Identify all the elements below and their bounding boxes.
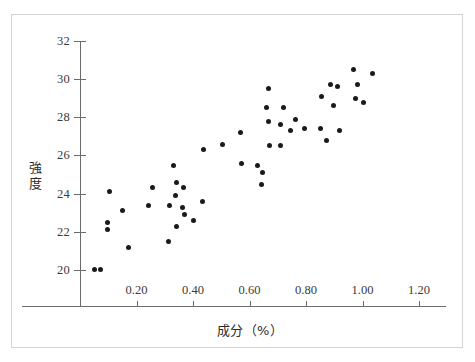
x-axis-tick-label: 1.00 [340,283,386,298]
data-point [331,103,336,108]
y-axis-tick [74,155,86,156]
data-point [255,163,260,168]
data-point [171,163,176,168]
data-point [266,119,271,124]
data-point [105,227,110,232]
data-point [191,218,196,223]
x-axis-tick [137,301,138,307]
data-point [239,161,244,166]
data-point [92,267,97,272]
y-axis-tick-label: 22 [40,225,70,239]
data-point [181,185,186,190]
data-point [281,105,286,110]
y-axis-tick [74,117,86,118]
y-axis-tick-label-text: 32 [44,34,70,49]
y-axis-tick-label-text: 20 [44,263,70,278]
y-axis-tick-label: 28 [40,110,70,124]
y-axis-tick-label-text: 30 [44,72,70,87]
x-axis-line [22,306,446,307]
data-point [351,67,356,72]
y-axis-tick-label: 26 [40,148,70,162]
y-axis-tick [74,79,86,80]
x-axis-tick-label: 0.80 [283,283,329,298]
data-point [150,185,155,190]
data-point [174,180,179,185]
x-axis-tick [306,301,307,307]
data-point [120,208,125,213]
data-point [107,189,112,194]
data-point [353,96,358,101]
data-point [324,138,329,143]
y-axis-tick-label-text: 24 [44,187,70,202]
y-axis-tick [74,270,86,271]
data-point [200,199,205,204]
y-axis-tick-label-text: 26 [44,148,70,163]
data-point [174,224,179,229]
data-point [267,143,272,148]
y-axis-tick [74,232,86,233]
scatter-plot: 強度 成分（%） 20222426283032 0.200.400.600.80… [0,0,475,362]
data-point [318,126,323,131]
data-point [201,147,206,152]
data-point [126,245,131,250]
x-axis-tick-label: 0.60 [227,283,273,298]
data-point [146,203,151,208]
y-axis-tick-label: 20 [40,263,70,277]
data-point [278,143,283,148]
x-axis-tick [363,301,364,307]
x-axis-tick-label: 0.40 [170,283,216,298]
y-axis-tick-label-text: 22 [44,225,70,240]
data-point [355,82,360,87]
x-axis-tick [193,301,194,307]
y-axis-tick [74,41,86,42]
data-point [266,86,271,91]
data-point [370,71,375,76]
data-point [238,130,243,135]
x-axis-title: 成分（%） [150,320,350,339]
data-point [182,212,187,217]
data-point [260,170,265,175]
data-point [319,94,324,99]
data-point [105,220,110,225]
data-point [288,128,293,133]
x-axis-tick-label: 0.20 [114,283,160,298]
data-point [361,100,366,105]
y-axis-tick-label: 32 [40,34,70,48]
data-point [259,182,264,187]
data-point [293,117,298,122]
data-point [278,122,283,127]
data-point [302,126,307,131]
data-point [335,84,340,89]
y-axis-tick-label: 30 [40,72,70,86]
x-axis-tick [419,301,420,307]
data-point [173,193,178,198]
data-point [180,205,185,210]
data-point [328,82,333,87]
data-point [337,128,342,133]
y-axis-tick-label-text: 28 [44,110,70,125]
data-point [98,267,103,272]
data-point [220,142,225,147]
x-axis-tick-label: 1.20 [396,283,442,298]
x-axis-tick [250,301,251,307]
y-axis-tick [74,194,86,195]
data-point [167,203,172,208]
y-axis-tick-label: 24 [40,187,70,201]
data-point [166,239,171,244]
data-point [264,105,269,110]
y-axis-line [80,41,81,307]
